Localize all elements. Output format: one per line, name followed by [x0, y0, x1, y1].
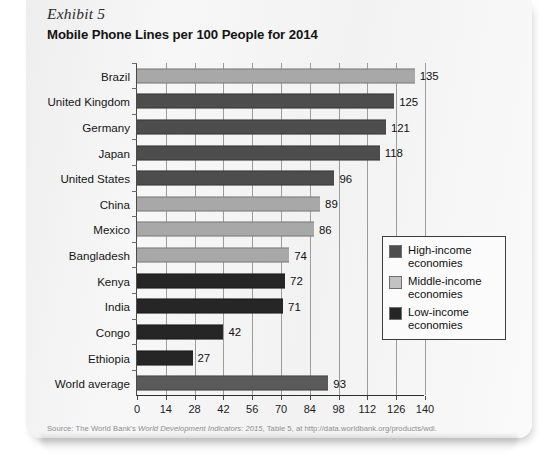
- bar: 96: [137, 171, 334, 186]
- x-axis-tick-label: 126: [387, 403, 405, 415]
- source-note: Source: The World Bank's World Developme…: [47, 424, 437, 433]
- chart-row: China89: [137, 191, 424, 217]
- bar-chart: 014284256708498112126140Brazil135United …: [0, 0, 547, 438]
- bar: 121: [137, 120, 386, 135]
- y-axis-tick: [132, 114, 137, 115]
- category-label: Mexico: [93, 223, 130, 236]
- x-axis-tick: [166, 396, 167, 400]
- bar-value-label: 118: [385, 147, 403, 159]
- legend-swatch-middle: [389, 276, 402, 289]
- plot-area: 014284256708498112126140Brazil135United …: [136, 63, 424, 396]
- x-axis-tick: [396, 396, 397, 400]
- y-axis-tick: [132, 63, 137, 64]
- bar-value-label: 125: [399, 95, 418, 107]
- category-label: World average: [55, 377, 130, 390]
- y-axis-tick: [132, 319, 137, 320]
- x-axis-tick-label: 112: [359, 403, 377, 415]
- category-label: China: [100, 197, 130, 210]
- y-axis-tick: [132, 216, 137, 217]
- chart-row: India71: [137, 294, 424, 320]
- category-label: Bangladesh: [69, 249, 130, 262]
- bar-value-label: 72: [290, 275, 303, 287]
- bar-value-label: 121: [391, 121, 410, 133]
- x-axis-tick-label: 98: [332, 403, 344, 415]
- category-label: Japan: [98, 146, 130, 159]
- source-suffix: , Table 5, at http://data.worldbank.org/…: [263, 424, 437, 433]
- x-axis-tick-label: 42: [217, 403, 229, 415]
- legend-label: Low-income economies: [408, 306, 498, 331]
- bar-value-label: 71: [288, 300, 301, 312]
- legend-swatch-high: [389, 245, 402, 258]
- source-prefix: Source: The World Bank's: [47, 424, 138, 433]
- legend-swatch-low: [389, 307, 402, 320]
- page-root: Exhibit 5 Mobile Phone Lines per 100 Peo…: [0, 0, 547, 468]
- chart-row: Kenya72: [137, 268, 424, 294]
- bar: 72: [137, 273, 285, 288]
- chart-row: World average93: [137, 370, 424, 396]
- y-axis-tick: [132, 242, 137, 243]
- bar-value-label: 86: [319, 223, 332, 235]
- y-axis-tick: [132, 293, 137, 294]
- x-axis-tick-label: 28: [188, 403, 200, 415]
- source-italic-title: World Development Indicators: 2015: [138, 424, 263, 433]
- category-label: United Kingdom: [48, 95, 131, 108]
- legend-item-high: High-income economies: [389, 244, 498, 269]
- bar: 74: [137, 248, 289, 263]
- legend-item-low: Low-income economies: [389, 306, 498, 331]
- bar-value-label: 42: [228, 326, 241, 338]
- x-axis-tick: [281, 396, 282, 400]
- y-axis-tick: [132, 165, 137, 166]
- bar-value-label: 93: [333, 377, 346, 389]
- chart-row: Germany121: [137, 114, 424, 140]
- legend-label: Middle-income economies: [408, 275, 498, 300]
- chart-row: Bangladesh74: [137, 242, 424, 268]
- bar-value-label: 135: [420, 70, 439, 82]
- bar: 27: [137, 350, 193, 365]
- category-label: United States: [60, 172, 130, 185]
- category-label: Congo: [96, 325, 130, 338]
- x-axis-tick-label: 56: [246, 403, 258, 415]
- y-axis-tick: [132, 370, 137, 371]
- bar: 86: [137, 222, 314, 237]
- x-axis-tick: [223, 396, 224, 400]
- chart-row: Ethiopia27: [137, 345, 424, 371]
- x-axis-tick-label: 84: [304, 403, 316, 415]
- gridline: [425, 63, 426, 395]
- bar: 135: [137, 68, 415, 83]
- chart-row: Japan118: [137, 140, 424, 166]
- x-axis-tick: [425, 396, 426, 400]
- y-axis-tick: [132, 191, 137, 192]
- bar: 89: [137, 196, 320, 211]
- category-label: Kenya: [97, 274, 130, 287]
- category-label: Germany: [82, 121, 130, 134]
- legend-label: High-income economies: [408, 244, 498, 269]
- x-axis-tick: [195, 396, 196, 400]
- card-drop-shadow: [40, 436, 518, 452]
- category-label: Brazil: [101, 69, 130, 82]
- x-axis-tick-label: 0: [134, 403, 140, 415]
- bar-value-label: 96: [339, 172, 352, 184]
- category-label: India: [105, 300, 130, 313]
- chart-row: United States96: [137, 165, 424, 191]
- chart-row: Mexico86: [137, 217, 424, 243]
- x-axis-tick: [310, 396, 311, 400]
- bar-value-label: 27: [198, 352, 211, 364]
- y-axis-tick: [132, 88, 137, 89]
- x-axis-tick: [367, 396, 368, 400]
- x-axis-tick: [137, 396, 138, 400]
- bar: 118: [137, 145, 380, 160]
- bar-value-label: 74: [294, 249, 307, 261]
- x-axis-tick-label: 14: [160, 403, 172, 415]
- bar: 93: [137, 376, 328, 391]
- bar: 125: [137, 94, 394, 109]
- chart-legend: High-income economiesMiddle-income econo…: [382, 236, 506, 340]
- y-axis-tick: [132, 139, 137, 140]
- legend-item-middle: Middle-income economies: [389, 275, 498, 300]
- y-axis-tick: [132, 267, 137, 268]
- chart-row: Congo42: [137, 319, 424, 345]
- chart-row: United Kingdom125: [137, 89, 424, 115]
- chart-row: Brazil135: [137, 63, 424, 89]
- y-axis-tick: [132, 344, 137, 345]
- x-axis-tick-label: 140: [416, 403, 434, 415]
- bar: 42: [137, 324, 223, 339]
